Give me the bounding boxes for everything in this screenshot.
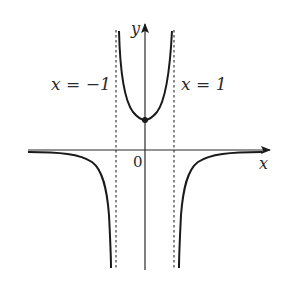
asymptote-right-label: x = 1 [181, 76, 226, 93]
y-intercept-point [142, 117, 148, 123]
function-graph: y x 0 x = −1 x = 1 [0, 0, 281, 284]
asymptote-left-label: x = −1 [51, 76, 111, 93]
curve-left-branch [28, 152, 111, 268]
graph-canvas [0, 0, 281, 284]
curve-right-branch [179, 152, 262, 268]
y-axis-label: y [131, 21, 140, 37]
x-axis-label: x [259, 156, 268, 172]
origin-label: 0 [133, 155, 143, 170]
